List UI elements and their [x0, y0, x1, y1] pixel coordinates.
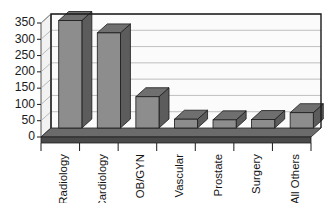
- category-label: All Others: [289, 154, 301, 203]
- bar-front-face: [252, 120, 275, 128]
- bar-chart-figure: 050100150200250300350 RadiologyCardiolog…: [0, 0, 335, 203]
- bar-front-face: [290, 113, 313, 128]
- y-tick-label: 250: [15, 48, 36, 62]
- bar-radiology: [59, 12, 92, 128]
- left-wall-panel: [41, 14, 51, 137]
- bar-front-face: [174, 119, 197, 128]
- y-tick-label: 100: [15, 97, 36, 111]
- category-tick-marks: [41, 143, 311, 151]
- category-label: OB/GYN: [134, 154, 146, 198]
- category-labels: RadiologyCardiologyOB/GYNVascularProstat…: [57, 154, 300, 203]
- floor-top-surface: [41, 128, 321, 137]
- category-label: Radiology: [57, 154, 69, 203]
- y-axis-ticks: 050100150200250300350: [15, 15, 41, 143]
- bar-front-face: [97, 33, 120, 128]
- y-tick-label: 0: [28, 129, 35, 143]
- bar-cardiology: [97, 24, 130, 128]
- bar-front-face: [213, 120, 236, 128]
- bar-front-face: [136, 97, 159, 128]
- category-label: Vascular: [173, 154, 185, 198]
- floor-front-face: [41, 137, 311, 143]
- bar-ob-gyn: [136, 88, 169, 128]
- y-tick-label: 300: [15, 32, 36, 46]
- category-label: Surgery: [250, 154, 262, 194]
- category-label: Prostate: [212, 154, 224, 196]
- y-tick-label: 200: [15, 64, 36, 78]
- bar-side-face: [120, 24, 130, 128]
- y-tick-label: 50: [21, 113, 35, 127]
- bar-front-face: [59, 21, 82, 128]
- y-tick-label: 150: [15, 80, 36, 94]
- chart-canvas: 050100150200250300350 RadiologyCardiolog…: [0, 0, 335, 203]
- y-tick-label: 350: [15, 15, 36, 29]
- bar-side-face: [82, 12, 92, 128]
- category-label: Cardiology: [96, 154, 108, 203]
